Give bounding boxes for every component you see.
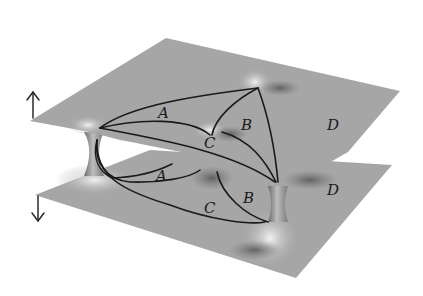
label-upper-b: B [240, 116, 252, 134]
label-lower-a: A [154, 167, 167, 185]
label-lower-c: C [204, 199, 216, 217]
up-arrow-icon [27, 92, 39, 118]
label-upper-d: D [326, 116, 339, 134]
label-lower-d: D [326, 181, 339, 199]
label-upper-c: C [204, 134, 216, 152]
label-upper-a: A [156, 104, 169, 122]
down-arrow-icon [32, 196, 44, 221]
two-sheet-diagram: A B C D A B C D [0, 0, 423, 296]
label-lower-b: B [242, 189, 254, 207]
